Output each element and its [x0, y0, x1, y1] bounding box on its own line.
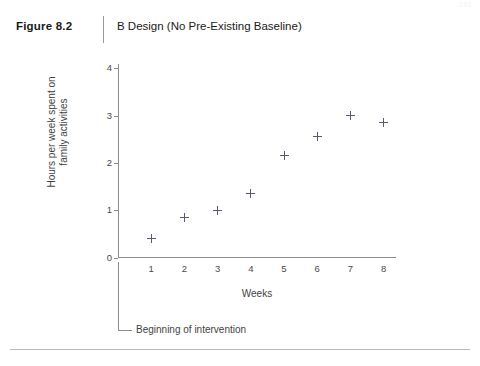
- y-tick-mark: [114, 68, 118, 69]
- y-tick-mark: [114, 258, 118, 259]
- data-point: [213, 206, 222, 215]
- data-point: [379, 118, 388, 127]
- scatter-chart: 01234 12345678 Weeks Hours per week spen…: [0, 0, 480, 366]
- x-tick-label: 3: [208, 263, 228, 274]
- page-bottom-rule: [10, 349, 470, 350]
- intervention-leader-vertical: [118, 262, 119, 330]
- y-axis-title-line-2: family activities: [58, 52, 70, 212]
- x-axis-title: Weeks: [118, 288, 396, 299]
- data-point: [346, 111, 355, 120]
- y-tick-mark: [114, 116, 118, 117]
- data-point: [147, 234, 156, 243]
- intervention-leader-horizontal: [118, 330, 132, 331]
- x-tick-label: 4: [241, 263, 261, 274]
- x-axis-ticks: 12345678: [0, 0, 480, 366]
- data-point: [180, 213, 189, 222]
- y-tick-mark: [114, 210, 118, 211]
- x-tick-label: 6: [307, 263, 327, 274]
- x-tick-label: 7: [340, 263, 360, 274]
- data-point: [280, 151, 289, 160]
- y-axis-title-line-1: Hours per week spent on: [46, 52, 58, 212]
- x-tick-label: 8: [374, 263, 394, 274]
- y-axis-title: Hours per week spent on family activitie…: [46, 52, 70, 212]
- data-point: [313, 132, 322, 141]
- x-tick-label: 2: [174, 263, 194, 274]
- data-point: [246, 189, 255, 198]
- x-tick-label: 5: [274, 263, 294, 274]
- intervention-label: Beginning of intervention: [136, 324, 246, 335]
- y-tick-mark: [114, 163, 118, 164]
- x-tick-label: 1: [141, 263, 161, 274]
